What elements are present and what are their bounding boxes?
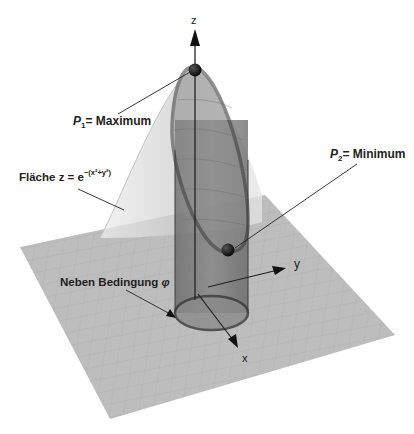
- y-axis-label: y: [294, 257, 300, 271]
- point-p2-minimum: [222, 244, 235, 257]
- p1-label: P1= Maximum: [73, 114, 151, 130]
- constraint-circle: [175, 296, 248, 330]
- constraint-label: Neben Bedingung φ: [60, 276, 170, 288]
- surface-label: Fläche z = e−(x²+y²): [19, 168, 111, 183]
- x-axis-label: x: [242, 352, 248, 364]
- p2-label: P2= Minimum: [330, 147, 405, 163]
- diagram-canvas: z y x P1= Maximum P2= Minimum Fläche z =…: [0, 0, 414, 434]
- z-axis-label: z: [191, 14, 197, 26]
- surface-leader-line: [78, 189, 124, 210]
- point-p1-maximum: [189, 64, 202, 77]
